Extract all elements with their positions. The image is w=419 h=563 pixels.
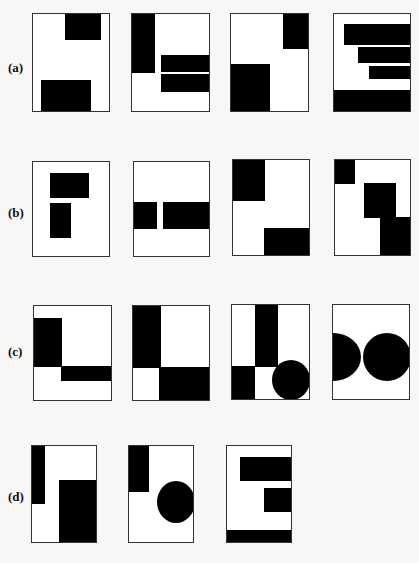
black-rectangle	[132, 14, 155, 73]
black-rectangle	[364, 183, 396, 218]
black-rectangle	[283, 14, 309, 49]
black-rectangle	[231, 64, 270, 112]
black-rectangle	[344, 24, 411, 45]
panel-frame	[333, 13, 411, 112]
black-rectangle	[32, 446, 45, 504]
black-rectangle	[61, 366, 112, 381]
black-rectangle	[159, 367, 210, 401]
black-rectangle	[240, 457, 292, 481]
row-label: (c)	[8, 344, 22, 360]
panel-frame	[230, 13, 309, 112]
black-rectangle	[369, 66, 411, 79]
panel-frame	[132, 305, 210, 401]
black-rectangle	[233, 160, 265, 201]
black-rectangle	[264, 488, 292, 512]
panel-frame	[334, 159, 411, 256]
panel-frame	[332, 304, 410, 400]
black-rectangle	[50, 203, 71, 238]
panel-frame	[32, 13, 110, 112]
row-label: (d)	[8, 489, 24, 505]
black-rectangle	[335, 160, 355, 184]
black-circle	[272, 360, 310, 400]
black-rectangle	[161, 74, 210, 92]
black-rectangle	[163, 202, 210, 229]
black-rectangle	[161, 55, 210, 72]
panel-frame	[31, 445, 97, 543]
panel-frame	[133, 161, 210, 257]
panel-frame	[231, 304, 310, 400]
black-rectangle	[41, 80, 91, 112]
panel-frame	[128, 445, 194, 543]
row-label: (a)	[8, 60, 23, 76]
panel-frame	[232, 159, 310, 256]
black-rectangle	[264, 228, 310, 256]
black-rectangle	[232, 366, 255, 400]
black-circle	[332, 333, 361, 381]
black-circle	[363, 333, 410, 381]
black-circle	[157, 481, 194, 523]
black-rectangle	[134, 202, 157, 229]
black-rectangle	[380, 217, 411, 256]
black-rectangle	[129, 446, 149, 492]
black-rectangle	[59, 480, 97, 543]
black-rectangle	[227, 530, 292, 543]
black-rectangle	[34, 318, 62, 367]
panel-frame	[32, 161, 110, 257]
panel-frame	[131, 13, 210, 112]
panel-frame	[33, 305, 112, 401]
black-rectangle	[50, 173, 89, 198]
panel-frame	[226, 445, 292, 543]
black-rectangle	[358, 47, 411, 63]
black-rectangle	[334, 90, 411, 112]
black-rectangle	[133, 306, 161, 368]
black-rectangle	[65, 14, 101, 40]
row-label: (b)	[8, 205, 24, 221]
black-rectangle	[255, 305, 278, 367]
